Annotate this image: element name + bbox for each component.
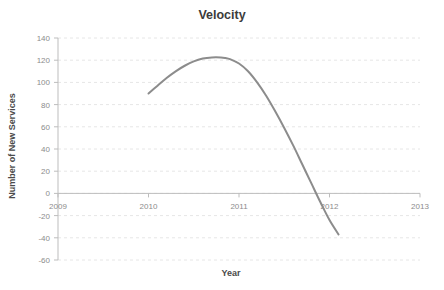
- gridlines-group: [58, 38, 420, 260]
- y-tick-label: -60: [38, 256, 50, 265]
- velocity-line-chart: 140120100806040200-20-40-60 200920102011…: [0, 0, 444, 290]
- x-tick-label: 2009: [49, 202, 67, 211]
- y-tick-label: 140: [37, 34, 51, 43]
- y-axis-tick-labels: 140120100806040200-20-40-60: [37, 34, 51, 265]
- y-axis-title: Number of New Services: [7, 93, 17, 199]
- x-tick-label: 2011: [230, 202, 248, 211]
- y-tick-label: 60: [41, 123, 50, 132]
- chart-container: 140120100806040200-20-40-60 200920102011…: [0, 0, 444, 290]
- y-tick-label: 80: [41, 101, 50, 110]
- y-tick-label: -20: [38, 212, 50, 221]
- y-tick-label: -40: [38, 234, 50, 243]
- x-tick-label: 2010: [140, 202, 158, 211]
- x-tick-label: 2013: [411, 202, 429, 211]
- y-tick-label: 20: [41, 167, 50, 176]
- y-tick-label: 40: [41, 145, 50, 154]
- y-tick-label: 0: [46, 189, 51, 198]
- y-tick-label: 120: [37, 56, 51, 65]
- y-tick-label: 100: [37, 78, 51, 87]
- x-axis-tick-labels: 20092010201120122013: [49, 202, 429, 211]
- chart-title: Velocity: [198, 8, 245, 22]
- x-axis-title: Year: [221, 268, 241, 278]
